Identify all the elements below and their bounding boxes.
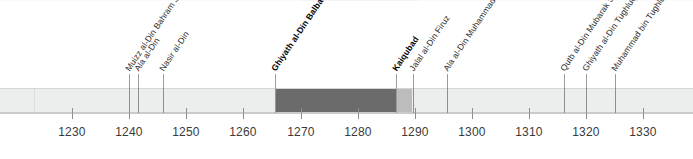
axis-tick-1260: [243, 108, 244, 119]
axis-tick-label-1290: 1290: [385, 125, 445, 139]
reign-segment-light-1: [0, 89, 34, 112]
event-stem-nasir-al-din: [163, 74, 164, 88]
event-tick-kaiqubad: [396, 88, 397, 113]
event-stem-muizz-al-din-bahram-shah: [129, 74, 130, 88]
event-label-nasir-al-din: Nasir al-Din: [158, 29, 191, 72]
event-label-anchor-ala-al-din-muhammad: Ala al-Din Muhammad: [449, 0, 450, 72]
event-tick-muhammad-bin-tughluq: [615, 88, 616, 113]
axis-tick-1250: [186, 108, 187, 119]
reign-segment-light-2: [35, 89, 275, 112]
axis-line: [0, 113, 693, 114]
event-stem-ala-al-din-muhammad: [447, 74, 448, 88]
event-tick-ala-al-din-muhammad: [447, 88, 448, 113]
event-tick-qutb-al-din-mubarak-shah: [564, 88, 565, 113]
axis-tick-1230: [72, 108, 73, 119]
axis-tick-1320: [586, 108, 587, 119]
axis-tick-label-1260: 1260: [213, 125, 273, 139]
event-label-anchor-qutb-al-din-mubarak-shah: Qutb al-Din Mubarak Shah: [566, 0, 567, 72]
event-stem-ghiyath-al-din-tughluq: [586, 74, 587, 88]
axis-tick-label-1240: 1240: [99, 125, 159, 139]
axis-tick-1280: [358, 108, 359, 119]
axis-tick-1240: [129, 108, 130, 119]
event-label-anchor-ghiyath-al-din-balban: Ghiyath al-Din Balban: [277, 0, 278, 72]
event-label-ala-al-din-muhammad: Ala al-Din Muhammad: [442, 0, 497, 72]
axis-tick-label-1230: 1230: [42, 125, 102, 139]
event-stem-qutb-al-din-mubarak-shah: [564, 74, 565, 88]
axis-tick-label-1250: 1250: [156, 125, 216, 139]
event-tick-jalal-al-din-firuz: [413, 88, 414, 113]
event-stem-ala-al-din: [138, 74, 139, 88]
event-stem-jalal-al-din-firuz: [413, 74, 414, 88]
axis-tick-label-1330: 1330: [613, 125, 673, 139]
axis-tick-1270: [301, 108, 302, 119]
reign-segment-light-3: [412, 89, 693, 112]
event-tick-ala-al-din: [138, 88, 139, 113]
event-tick-nasir-al-din: [163, 88, 164, 113]
event-stem-ghiyath-al-din-balban: [275, 74, 276, 88]
event-stem-kaiqubad: [396, 74, 397, 88]
axis-tick-label-1270: 1270: [271, 125, 331, 139]
event-tick-ghiyath-al-din-balban: [275, 88, 276, 113]
axis-tick-label-1320: 1320: [556, 125, 616, 139]
axis-tick-1330: [643, 108, 644, 119]
event-label-anchor-muizz-al-din-bahram-shah: Muizz al-Din Bahram Shah: [131, 0, 132, 72]
event-label-anchor-jalal-al-din-firuz: Jalal al-Din Firuz: [415, 0, 416, 72]
event-label-anchor-kaiqubad: Kaiqubad: [398, 0, 399, 72]
axis-tick-1300: [472, 108, 473, 119]
event-stem-muhammad-bin-tughluq: [615, 74, 616, 88]
reign-segment-balban: [275, 89, 396, 112]
axis-tick-1310: [529, 108, 530, 119]
event-label-anchor-muhammad-bin-tughluq: Muhammad bin Tughluq: [617, 0, 618, 72]
timeline-chart: Muizz al-Din Bahram Shah Ala al-Din Nasi…: [0, 0, 693, 159]
event-label-anchor-ghiyath-al-din-tughluq: Ghiyath al-Din Tughluq: [588, 0, 589, 72]
event-label-ghiyath-al-din-balban: Ghiyath al-Din Balban: [270, 0, 328, 72]
event-label-anchor-nasir-al-din: Nasir al-Din: [165, 0, 166, 72]
axis-tick-label-1310: 1310: [499, 125, 559, 139]
axis-tick-label-1300: 1300: [442, 125, 502, 139]
axis-tick-1290: [415, 108, 416, 119]
axis-tick-label-1280: 1280: [328, 125, 388, 139]
reign-bar: [0, 88, 693, 113]
event-label-anchor-ala-al-din: Ala al-Din: [140, 0, 141, 72]
reign-segment-kaiqubad: [396, 89, 412, 112]
